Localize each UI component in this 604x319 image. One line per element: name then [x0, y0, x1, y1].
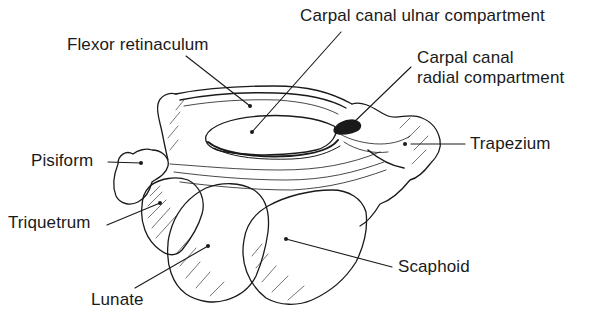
label-flexor-retinaculum: Flexor retinaculum [67, 35, 209, 54]
trapezium-bone [352, 103, 440, 226]
label-scaphoid: Scaphoid [398, 257, 470, 276]
triquetrum-bone [142, 178, 204, 255]
label-pisiform: Pisiform [31, 151, 93, 170]
label-radial-compartment-line2: radial compartment [417, 68, 564, 87]
label-triquetrum: Triquetrum [8, 213, 91, 232]
label-radial-compartment-line1: Carpal canal [417, 48, 514, 67]
label-ulnar-compartment: Carpal canal ulnar compartment [300, 6, 545, 25]
radial-compartment-opening [334, 120, 361, 134]
anatomy-diagram: Flexor retinaculum Carpal canal ulnar co… [0, 0, 604, 319]
flexor-retinaculum-band [176, 86, 352, 104]
scaphoid-bone [243, 190, 367, 304]
leader-lines [107, 32, 465, 288]
pisiform-bone [114, 149, 168, 204]
label-lunate: Lunate [91, 290, 144, 309]
hamate-hook [157, 93, 176, 160]
ulnar-compartment-opening [206, 115, 336, 154]
label-trapezium: Trapezium [470, 134, 551, 153]
